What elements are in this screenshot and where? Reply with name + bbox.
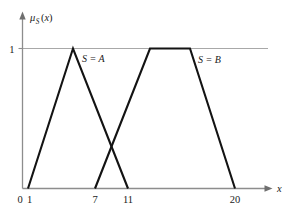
x-tick-label-20: 20: [230, 194, 241, 205]
curve-series-b: [95, 49, 235, 189]
y-tick-label-one: 1: [9, 44, 14, 55]
x-axis-title: x: [276, 183, 282, 194]
membership-function-plot: μS(x) x 1 0 1 7 11 20 S = A S = B: [0, 0, 301, 216]
x-tick-label-7: 7: [92, 194, 97, 205]
fuzzy-membership-figure: μS(x) x 1 0 1 7 11 20 S = A S = B: [0, 0, 301, 216]
y-axis-title: μS(x): [29, 12, 53, 26]
x-axis-arrowhead: [265, 185, 273, 191]
x-tick-label-11: 11: [123, 194, 133, 205]
x-tick-label-0: 0: [17, 194, 22, 205]
x-tick-label-1: 1: [27, 194, 32, 205]
series-label-b: S = B: [198, 54, 221, 65]
y-axis-arrowhead: [19, 12, 25, 20]
curve-series-a: [28, 49, 128, 189]
series-label-a: S = A: [82, 53, 106, 64]
